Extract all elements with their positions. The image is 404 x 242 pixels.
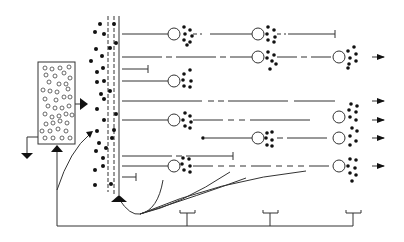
diagram-canvas bbox=[0, 0, 404, 242]
node-circles bbox=[168, 28, 345, 172]
feedback-curves bbox=[57, 134, 306, 214]
signal-rows bbox=[122, 30, 384, 181]
channel-triangle bbox=[111, 195, 127, 202]
box-drain-arrow bbox=[21, 137, 38, 159]
dot-clusters bbox=[180, 25, 359, 183]
schematic-diagram bbox=[0, 0, 404, 242]
box-input-triangle bbox=[51, 145, 63, 226]
box-output-arrow bbox=[75, 98, 88, 110]
bottom-bus bbox=[57, 210, 361, 226]
reservoir-box bbox=[38, 62, 75, 144]
